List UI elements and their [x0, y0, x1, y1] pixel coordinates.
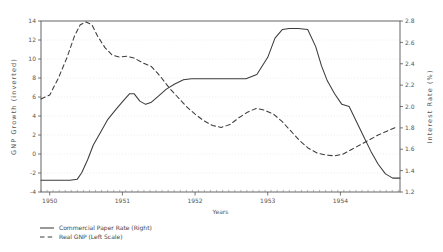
y-axis-tick-label: 8 [32, 74, 36, 81]
y-axis-title: GNP Growth (inverted) [10, 58, 18, 155]
y-axis-tick-label: 0 [32, 150, 36, 157]
y2-axis-tick-label: 1.4 [405, 167, 415, 174]
line-chart: -4-2024681012141.21.41.61.82.02.22.42.62… [0, 0, 443, 252]
y-axis-tick-label: -4 [30, 188, 36, 195]
x-axis-tick-label: 1953 [260, 197, 275, 204]
x-axis-title: Years [212, 208, 229, 215]
series-line-2 [41, 22, 396, 156]
x-axis-tick-label: 1951 [115, 197, 130, 204]
x-axis-tick-label: 1950 [42, 197, 57, 204]
y2-axis-tick-label: 2.6 [405, 39, 415, 46]
legend-label-1: Commercial Paper Rate (Right) [59, 224, 152, 232]
y2-axis-tick-label: 2.8 [405, 17, 415, 24]
y-axis-tick-label: 6 [32, 93, 36, 100]
y2-axis-tick-label: 2.0 [405, 103, 415, 110]
x-axis-tick-label: 1952 [187, 197, 202, 204]
legend-label-2: Real GNP (Left Scale) [59, 233, 123, 240]
plot-frame [41, 21, 400, 192]
y2-axis-tick-label: 2.2 [405, 81, 415, 88]
chart-figure: -4-2024681012141.21.41.61.82.02.22.42.62… [0, 0, 443, 252]
y2-axis-title: Interest Rate (%) [426, 69, 434, 143]
y-axis-tick-label: 2 [32, 131, 36, 138]
series-line-1 [41, 28, 400, 180]
y-axis-tick-label: 10 [28, 55, 36, 62]
y2-axis-tick-label: 1.2 [405, 188, 415, 195]
y-axis-tick-label: -2 [30, 169, 36, 176]
y2-axis-tick-label: 1.6 [405, 145, 415, 152]
y2-axis-tick-label: 2.4 [405, 60, 415, 67]
y2-axis-tick-label: 1.8 [405, 124, 415, 131]
y-axis-tick-label: 12 [28, 36, 36, 43]
y-axis-tick-label: 4 [32, 112, 36, 119]
x-axis-tick-label: 1954 [333, 197, 348, 204]
y-axis-tick-label: 14 [28, 17, 36, 24]
